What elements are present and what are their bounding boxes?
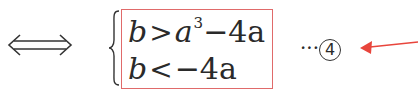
highlighted-system-box: b>a3−4a b<−4a	[121, 9, 273, 89]
greater-than: >	[149, 16, 172, 49]
circled-number: 4	[319, 39, 341, 61]
equation-label: ···4	[300, 36, 341, 61]
equivalence-arrow-icon	[6, 32, 74, 58]
inequality-line-1: b>a3−4a	[128, 16, 265, 47]
variable-b: b	[128, 14, 147, 49]
variable-b: b	[128, 51, 147, 86]
pointer-arrow-icon	[358, 36, 418, 56]
left-brace-icon	[108, 10, 120, 86]
rhs: −4a	[175, 51, 237, 86]
inequality-line-2: b<−4a	[128, 54, 237, 84]
rhs-rest: −4a	[203, 14, 265, 49]
variable-a: a	[175, 14, 193, 49]
dots: ···	[300, 36, 319, 60]
exponent: 3	[194, 14, 204, 32]
partial-text-below: ...	[76, 98, 105, 107]
less-than: <	[149, 53, 172, 86]
